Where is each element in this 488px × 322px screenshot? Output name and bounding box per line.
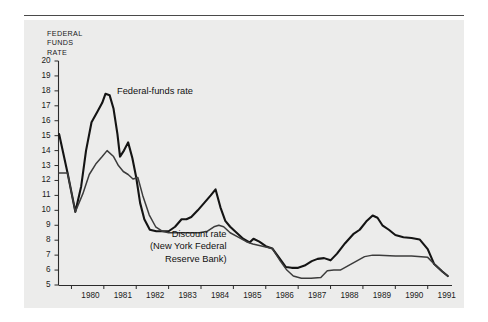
y-tick-label: 12	[37, 175, 51, 184]
y-tick-label: 10	[37, 205, 51, 214]
x-tick-label: 1991	[430, 291, 464, 300]
chart-figure: FEDERAL FUNDS RATE Federal-funds rate Di…	[0, 0, 488, 322]
y-tick-label: 14	[37, 146, 51, 155]
y-tick-label: 8	[37, 235, 51, 244]
series-label-federal-funds: Federal-funds rate	[117, 86, 193, 96]
y-tick-label: 5	[37, 280, 51, 289]
y-tick-label: 19	[37, 71, 51, 80]
x-tick-label: 1988	[333, 291, 367, 300]
x-tick-label: 1989	[365, 291, 399, 300]
x-tick-label: 1987	[300, 291, 334, 300]
y-tick-label: 7	[37, 250, 51, 259]
axis-title: FEDERAL FUNDS RATE	[47, 29, 83, 57]
x-tick-label: 1990	[397, 291, 431, 300]
x-tick-label: 1984	[203, 291, 237, 300]
y-tick-label: 13	[37, 161, 51, 170]
y-axis-ticks	[55, 61, 59, 285]
x-tick-label: 1981	[106, 291, 140, 300]
series-label-discount-rate: Discount rate (New York Federal Reserve …	[150, 228, 226, 265]
series-line	[59, 151, 448, 279]
y-tick-label: 16	[37, 116, 51, 125]
series-paths	[59, 94, 448, 278]
x-tick-label: 1985	[235, 291, 269, 300]
x-tick-label: 1980	[73, 291, 107, 300]
y-tick-label: 6	[37, 265, 51, 274]
series-line	[59, 94, 448, 276]
y-tick-label: 11	[37, 190, 51, 199]
y-tick-label: 17	[37, 101, 51, 110]
y-tick-label: 9	[37, 220, 51, 229]
y-tick-label: 18	[37, 86, 51, 95]
y-tick-label: 15	[37, 131, 51, 140]
x-tick-label: 1983	[171, 291, 205, 300]
x-tick-label: 1982	[138, 291, 172, 300]
y-tick-label: 20	[37, 56, 51, 65]
x-tick-label: 1986	[268, 291, 302, 300]
